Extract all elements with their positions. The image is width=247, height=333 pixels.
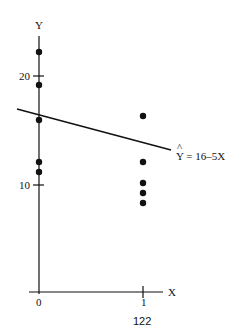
data-point [140, 200, 146, 206]
y-tick-label-20: 20 [19, 70, 31, 82]
data-point [140, 190, 146, 196]
equation-label: Y = 16–5X [176, 150, 225, 162]
x-tick-label-0: 0 [36, 296, 42, 308]
data-point [36, 159, 42, 165]
regression-chart: Y X 20 10 0 1 122 ^ Y = 16–5X [0, 0, 247, 333]
regression-line [17, 109, 171, 150]
data-point [36, 49, 42, 55]
y-tick-label-10: 10 [19, 179, 31, 191]
x-tick-label-1: 1 [141, 296, 147, 308]
data-point [140, 113, 146, 119]
data-point [140, 159, 146, 165]
data-point [36, 82, 42, 88]
y-axis-label: Y [35, 19, 43, 31]
x-axis-label: X [168, 286, 176, 298]
page-number: 122 [133, 315, 151, 327]
data-point [36, 169, 42, 175]
data-point [36, 117, 42, 123]
data-point [140, 180, 146, 186]
